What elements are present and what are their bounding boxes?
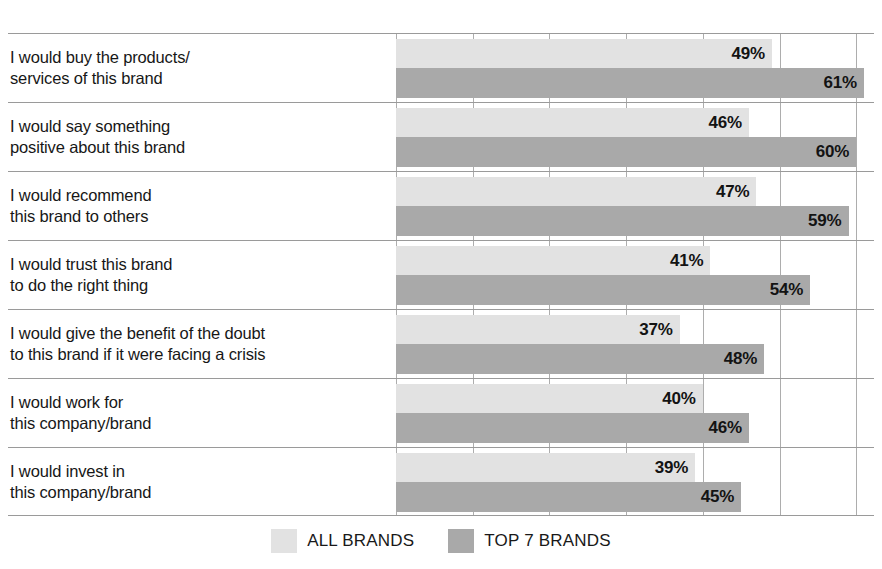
row-plot-area: 46%60% xyxy=(396,103,874,171)
row-category-label: I would say something positive about thi… xyxy=(10,116,388,158)
legend-swatch-icon xyxy=(448,529,474,553)
bar-value-label: 40% xyxy=(662,389,702,409)
chart-row: 46%60%I would say something positive abo… xyxy=(8,102,874,171)
chart-row: 49%61%I would buy the products/ services… xyxy=(8,33,874,102)
bar-value-label: 49% xyxy=(731,44,771,64)
bar-all-brands: 40% xyxy=(396,384,703,413)
chart-row: 41%54%I would trust this brand to do the… xyxy=(8,240,874,309)
row-plot-area: 39%45% xyxy=(396,448,874,515)
bar-value-label: 47% xyxy=(716,182,756,202)
bar-all-brands: 41% xyxy=(396,246,710,275)
row-bars: 47%59% xyxy=(396,172,874,240)
bar-all-brands: 46% xyxy=(396,108,749,137)
chart-row: 47%59%I would recommend this brand to ot… xyxy=(8,171,874,240)
row-plot-area: 49%61% xyxy=(396,34,874,102)
row-bars: 46%60% xyxy=(396,103,874,171)
bar-value-label: 54% xyxy=(770,280,810,300)
chart-row: 40%46%I would work for this company/bran… xyxy=(8,378,874,447)
bar-top-7-brands: 61% xyxy=(396,68,864,98)
brand-behaviors-bar-chart: 49%61%I would buy the products/ services… xyxy=(0,0,882,569)
bar-value-label: 45% xyxy=(701,487,741,507)
bar-value-label: 39% xyxy=(655,458,695,478)
chart-row: 37%48%I would give the benefit of the do… xyxy=(8,309,874,378)
bar-value-label: 37% xyxy=(639,320,679,340)
bar-all-brands: 39% xyxy=(396,453,695,482)
row-category-label: I would invest in this company/brand xyxy=(10,461,388,503)
row-category-label: I would work for this company/brand xyxy=(10,392,388,434)
row-plot-area: 40%46% xyxy=(396,379,874,447)
bar-value-label: 61% xyxy=(823,73,863,93)
bar-value-label: 59% xyxy=(808,211,848,231)
bar-all-brands: 47% xyxy=(396,177,756,206)
bar-value-label: 41% xyxy=(670,251,710,271)
legend-item: TOP 7 BRANDS xyxy=(448,529,610,553)
bar-top-7-brands: 45% xyxy=(396,482,741,512)
row-category-label: I would give the benefit of the doubt to… xyxy=(10,323,388,365)
chart-rows-area: 49%61%I would buy the products/ services… xyxy=(8,33,874,516)
bar-top-7-brands: 60% xyxy=(396,137,856,167)
bar-top-7-brands: 54% xyxy=(396,275,810,305)
cropped-title-remnant xyxy=(0,0,882,4)
legend-item: ALL BRANDS xyxy=(271,529,414,553)
legend-label: TOP 7 BRANDS xyxy=(484,531,610,551)
row-category-label: I would recommend this brand to others xyxy=(10,185,388,227)
legend-label: ALL BRANDS xyxy=(307,531,414,551)
bar-top-7-brands: 59% xyxy=(396,206,849,236)
row-bars: 39%45% xyxy=(396,448,874,515)
bar-all-brands: 37% xyxy=(396,315,680,344)
bar-value-label: 48% xyxy=(724,349,764,369)
row-category-label: I would buy the products/ services of th… xyxy=(10,47,388,89)
bar-value-label: 60% xyxy=(816,142,856,162)
row-bars: 41%54% xyxy=(396,241,874,309)
row-bars: 37%48% xyxy=(396,310,874,378)
bar-top-7-brands: 46% xyxy=(396,413,749,443)
row-plot-area: 41%54% xyxy=(396,241,874,309)
bar-value-label: 46% xyxy=(708,418,748,438)
chart-row: 39%45%I would invest in this company/bra… xyxy=(8,447,874,516)
row-plot-area: 47%59% xyxy=(396,172,874,240)
bar-value-label: 46% xyxy=(708,113,748,133)
legend-swatch-icon xyxy=(271,529,297,553)
bar-top-7-brands: 48% xyxy=(396,344,764,374)
row-category-label: I would trust this brand to do the right… xyxy=(10,254,388,296)
row-bars: 49%61% xyxy=(396,34,874,102)
chart-legend: ALL BRANDSTOP 7 BRANDS xyxy=(0,524,882,558)
row-bars: 40%46% xyxy=(396,379,874,447)
row-plot-area: 37%48% xyxy=(396,310,874,378)
bar-all-brands: 49% xyxy=(396,39,772,68)
